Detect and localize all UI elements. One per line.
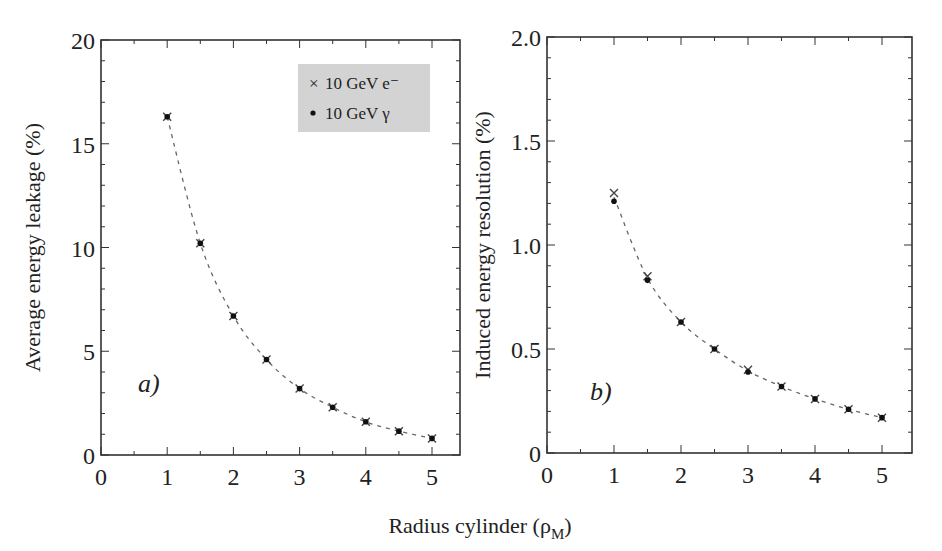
legend: × 10 GeV e⁻ 10 GeV γ <box>298 64 430 132</box>
figure: 01234505101520Average energy leakage (%)… <box>0 0 942 551</box>
legend-label-photon: 10 GeV γ <box>325 104 390 123</box>
y-tick-label: 0 <box>529 441 541 467</box>
x-tick-label: 4 <box>360 464 372 490</box>
legend-dot-marker-icon <box>310 110 315 115</box>
data-point-dot-marker <box>846 407 852 413</box>
data-point-dot-marker <box>264 357 270 363</box>
data-point-dot-marker <box>198 241 204 247</box>
data-point-dot-marker <box>231 313 237 319</box>
data-point-dot-marker <box>429 436 435 442</box>
data-point-dot-marker <box>330 404 336 410</box>
y-tick-label: 2.0 <box>511 25 541 51</box>
x-tick-label: 0 <box>95 464 107 490</box>
data-point-dot-marker <box>363 419 369 425</box>
x-tick-label: 3 <box>294 464 306 490</box>
x-tick-label: 1 <box>161 464 173 490</box>
data-point-dot-marker <box>611 199 617 205</box>
data-point-dot-marker <box>164 114 170 120</box>
y-tick-label: 15 <box>71 132 95 158</box>
x-tick-label: 0 <box>541 462 553 488</box>
x-tick-label: 4 <box>809 462 821 488</box>
y-tick-label: 1.5 <box>511 129 541 155</box>
x-tick-label: 1 <box>608 462 620 488</box>
chart-panel-b: 01234500.51.01.52.0Induced energy resolu… <box>470 25 912 488</box>
x-tick-label: 5 <box>426 464 438 490</box>
y-axis-title: Induced energy resolution (%) <box>470 111 495 379</box>
legend-label-electron: 10 GeV e⁻ <box>325 74 399 93</box>
data-point-x-marker <box>610 189 618 197</box>
y-tick-label: 5 <box>83 339 95 365</box>
y-tick-label: 20 <box>71 28 95 54</box>
fit-curve <box>614 197 882 417</box>
panel-label: a) <box>138 369 160 398</box>
data-point-dot-marker <box>297 386 303 392</box>
y-axis-title: Average energy leakage (%) <box>20 123 45 372</box>
data-point-dot-marker <box>745 369 751 375</box>
x-tick-label: 5 <box>876 462 888 488</box>
panel-label: b) <box>590 377 612 406</box>
data-point-dot-marker <box>712 346 718 352</box>
y-tick-label: 0.5 <box>511 337 541 363</box>
y-tick-label: 10 <box>71 236 95 262</box>
data-point-dot-marker <box>779 384 785 390</box>
data-point-dot-marker <box>396 428 402 434</box>
data-point-dot-marker <box>812 396 818 402</box>
data-point-dot-marker <box>879 415 885 421</box>
x-tick-label: 2 <box>227 464 239 490</box>
y-tick-label: 0 <box>83 443 95 469</box>
data-point-dot-marker <box>645 278 651 284</box>
y-tick-label: 1.0 <box>511 233 541 259</box>
x-axis-title: Radius cylinder (ρM) <box>388 513 571 542</box>
x-tick-label: 3 <box>742 462 754 488</box>
legend-x-marker-icon: × <box>309 74 319 93</box>
x-tick-label: 2 <box>675 462 687 488</box>
data-point-dot-marker <box>678 319 684 325</box>
